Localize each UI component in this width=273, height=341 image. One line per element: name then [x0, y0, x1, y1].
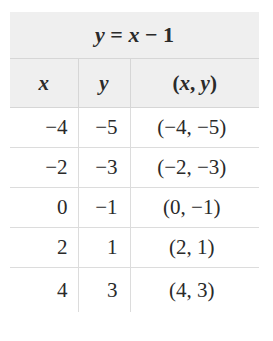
table-title-row: y = x − 1	[10, 12, 259, 59]
cell-x: 2	[10, 228, 78, 268]
cell-x: 0	[10, 188, 78, 228]
cell-y: −3	[78, 148, 130, 188]
table-row: 0 −1 (0, −1)	[10, 188, 259, 228]
column-header-row: x y (x, y)	[10, 59, 259, 108]
cell-point: (0, −1)	[130, 188, 259, 228]
cell-point: (4, 3)	[130, 268, 259, 313]
cell-x: 4	[10, 268, 78, 313]
table-row: −4 −5 (−4, −5)	[10, 108, 259, 148]
point-sep: ,	[190, 71, 201, 95]
column-header-y: y	[78, 59, 130, 108]
cell-x: −2	[10, 148, 78, 188]
paren-close: )	[210, 71, 217, 95]
cell-y: −1	[78, 188, 130, 228]
point-var-y: y	[201, 71, 210, 95]
paren-open: (	[173, 71, 180, 95]
cell-y: 3	[78, 268, 130, 313]
equation-equals: =	[105, 22, 129, 47]
cell-point: (2, 1)	[130, 228, 259, 268]
cell-x: −4	[10, 108, 78, 148]
function-value-table: y = x − 1 x y (x, y) −4 −5 (−4, −5) −2 −…	[10, 12, 259, 312]
cell-y: 1	[78, 228, 130, 268]
cell-point: (−2, −3)	[130, 148, 259, 188]
equation-variable: x	[128, 22, 139, 47]
equation-title: y = x − 1	[10, 12, 259, 59]
column-header-x: x	[10, 59, 78, 108]
table-row: −2 −3 (−2, −3)	[10, 148, 259, 188]
cell-point: (−4, −5)	[130, 108, 259, 148]
function-table-container: y = x − 1 x y (x, y) −4 −5 (−4, −5) −2 −…	[10, 12, 259, 312]
cell-y: −5	[78, 108, 130, 148]
table-row: 4 3 (4, 3)	[10, 268, 259, 313]
column-header-point: (x, y)	[130, 59, 259, 108]
table-row: 2 1 (2, 1)	[10, 228, 259, 268]
equation-rest: − 1	[139, 22, 174, 47]
equation-lhs: y	[95, 22, 105, 47]
point-var-x: x	[180, 71, 191, 95]
